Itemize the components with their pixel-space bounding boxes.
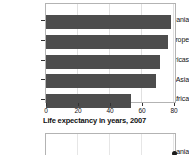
bar-chart-xlabel-20: 20: [68, 107, 88, 115]
bar-americas: [46, 55, 160, 69]
bar-africa: [46, 94, 131, 108]
bar-asia: [46, 74, 156, 88]
bar-chart-xtick-80: [174, 103, 175, 106]
bar-chart-xtick-40: [110, 103, 111, 106]
bar-chart-xlabel-60: 60: [132, 107, 152, 115]
bar-chart-xlabel-0: 0: [36, 107, 56, 115]
dot-chart-partial: Oceania: [0, 130, 189, 155]
bar-chart-xlabel-80: 80: [164, 107, 184, 115]
dot-oceania: [172, 151, 177, 156]
bar-chart-xtick-0: [46, 103, 47, 106]
bar-europe: [46, 35, 168, 49]
dot-chart-gridline-60: [141, 134, 142, 155]
dot-chart-gridline-20: [77, 134, 78, 155]
bar-chart-xtick-20: [78, 103, 79, 106]
bar-chart-life-expectancy: Oceania Europe Americas Asia Africa: [0, 0, 189, 126]
bar-chart-plot-area: [45, 3, 176, 103]
screenshot-root: Oceania Europe Americas Asia Africa: [0, 0, 189, 155]
bar-oceania: [46, 15, 171, 29]
bar-chart-xlabel-40: 40: [100, 107, 120, 115]
bar-chart-xtick-60: [142, 103, 143, 106]
bar-chart-axis-title: Life expectancy in years, 2007: [0, 116, 189, 125]
dot-chart-plot-area: [45, 133, 176, 155]
dot-chart-gridline-40: [109, 134, 110, 155]
bar-chart-gridline-80: [173, 4, 174, 102]
